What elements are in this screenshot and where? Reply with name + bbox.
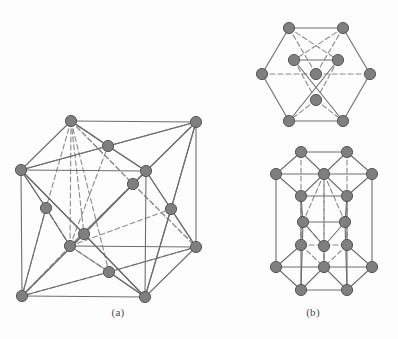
atom-bottom-corner (341, 239, 352, 250)
atom-top-corner (366, 168, 377, 179)
panel-caption-b: (b) (283, 306, 343, 318)
panel-caption-a: (a) (88, 306, 148, 318)
atom-interior (310, 94, 321, 105)
crystal-structure-figure: (a) (b) (0, 0, 398, 339)
atom-corner (15, 164, 26, 175)
atom-mid-plane (339, 216, 350, 227)
atom-center (310, 68, 321, 79)
crystal-structure-canvas (0, 0, 398, 339)
atom-face-center (165, 203, 176, 214)
atom-corner (64, 240, 75, 251)
atom-corner (337, 115, 348, 126)
atom-corner (16, 290, 27, 301)
atom-top-center (318, 168, 329, 179)
atom-top-corner (341, 146, 352, 157)
atom-bottom-center (318, 261, 329, 272)
atom-face-center (103, 266, 114, 277)
atom-face-center (40, 202, 51, 213)
atom-bottom-corner (270, 261, 281, 272)
atom-bottom-corner (295, 284, 306, 295)
atom-corner (190, 241, 201, 252)
atom-face-center (127, 178, 138, 189)
atom-corner (364, 68, 375, 79)
atom-top-corner (270, 168, 281, 179)
atom-face-center (78, 228, 89, 239)
atom-bottom-corner (341, 284, 352, 295)
atom-corner (337, 22, 348, 33)
atom-bottom-corner (366, 261, 377, 272)
figure-background (0, 0, 398, 339)
atom-corner (65, 115, 76, 126)
atom-corner (256, 68, 267, 79)
atom-corner (283, 115, 294, 126)
atom-interior (332, 54, 343, 65)
atom-corner (140, 165, 151, 176)
atom-top-corner (295, 190, 306, 201)
atom-mid-plane (318, 240, 329, 251)
atom-interior (288, 54, 299, 65)
atom-bottom-corner (295, 239, 306, 250)
atom-corner (190, 116, 201, 127)
atom-top-corner (295, 146, 306, 157)
atom-corner (283, 22, 294, 33)
atom-mid-plane (297, 216, 308, 227)
atom-corner (139, 291, 150, 302)
atom-face-center (102, 140, 113, 151)
atom-top-corner (341, 190, 352, 201)
